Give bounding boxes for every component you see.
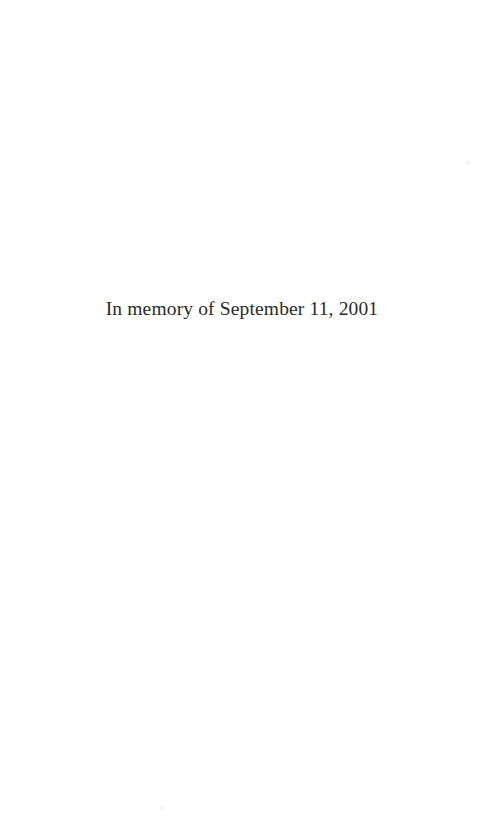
scan-speck-lower-left xyxy=(160,806,165,810)
dedication-text: In memory of September 11, 2001 xyxy=(106,297,379,321)
dedication-page: In memory of September 11, 2001 xyxy=(0,0,484,821)
scan-speck-upper-right xyxy=(466,160,470,165)
dedication-block: In memory of September 11, 2001 xyxy=(0,297,484,321)
